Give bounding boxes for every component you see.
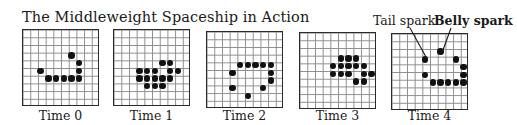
live-cell xyxy=(422,56,428,62)
live-cell xyxy=(368,71,374,77)
live-cell xyxy=(338,71,344,77)
live-cell xyxy=(144,75,150,81)
label-time-1: Time 1 xyxy=(107,108,197,123)
grid-time-0 xyxy=(22,29,99,106)
live-cell xyxy=(330,63,336,69)
live-cell xyxy=(345,71,351,77)
live-cell xyxy=(453,56,459,62)
live-cell xyxy=(167,68,173,74)
live-cell xyxy=(159,75,165,81)
live-cell xyxy=(361,63,367,69)
live-cell xyxy=(159,60,165,66)
live-cell xyxy=(76,75,82,81)
live-cell xyxy=(61,75,67,81)
live-cell xyxy=(430,79,436,85)
label-time-3: Time 3 xyxy=(293,108,383,123)
live-cell xyxy=(45,75,51,81)
live-cell xyxy=(453,79,459,85)
live-cell xyxy=(76,68,82,74)
live-cell xyxy=(175,68,181,74)
label-time-0: Time 0 xyxy=(16,108,106,123)
live-cell xyxy=(159,83,165,89)
live-cell xyxy=(460,64,466,70)
live-cell xyxy=(260,85,266,91)
live-cell xyxy=(345,55,351,61)
live-cell xyxy=(437,79,443,85)
live-cell xyxy=(252,62,258,68)
grid-time-1 xyxy=(113,29,190,106)
live-cell xyxy=(330,71,336,77)
live-cell xyxy=(345,63,351,69)
live-cell xyxy=(361,71,367,77)
live-cell xyxy=(460,72,466,78)
figure-title: The Middleweight Spaceship in Action xyxy=(22,9,309,25)
live-cell xyxy=(422,72,428,78)
tail-spark-annotation: Tail spark xyxy=(373,13,435,28)
label-time-2: Time 2 xyxy=(200,108,290,123)
live-cell xyxy=(338,63,344,69)
live-cell xyxy=(229,70,235,76)
belly-spark-annotation: Belly spark xyxy=(434,13,513,28)
live-cell xyxy=(144,83,150,89)
live-cell xyxy=(229,85,235,91)
live-cell xyxy=(237,62,243,68)
live-cell xyxy=(152,75,158,81)
live-cell xyxy=(338,55,344,61)
live-cell xyxy=(152,83,158,89)
live-cell xyxy=(260,62,266,68)
live-cell xyxy=(268,70,274,76)
live-cell xyxy=(245,93,251,99)
live-cell xyxy=(136,75,142,81)
live-cell xyxy=(353,78,359,84)
live-cell xyxy=(445,79,451,85)
live-cell xyxy=(460,79,466,85)
live-cell xyxy=(144,68,150,74)
live-cell xyxy=(152,68,158,74)
live-cell xyxy=(76,60,82,66)
live-cell xyxy=(53,75,59,81)
live-cell xyxy=(353,55,359,61)
live-cell xyxy=(167,75,173,81)
live-cell xyxy=(68,52,74,58)
grid-time-2 xyxy=(206,31,283,108)
live-cell xyxy=(245,62,251,68)
live-cell xyxy=(268,62,274,68)
live-cell xyxy=(361,78,367,84)
live-cell xyxy=(136,68,142,74)
live-cell xyxy=(437,48,443,54)
live-cell xyxy=(353,63,359,69)
label-time-4: Time 4 xyxy=(385,108,475,123)
grid-time-3 xyxy=(299,32,376,109)
grid-time-4 xyxy=(391,33,468,110)
live-cell xyxy=(68,75,74,81)
live-cell xyxy=(37,68,43,74)
live-cell xyxy=(268,77,274,83)
live-cell xyxy=(167,60,173,66)
